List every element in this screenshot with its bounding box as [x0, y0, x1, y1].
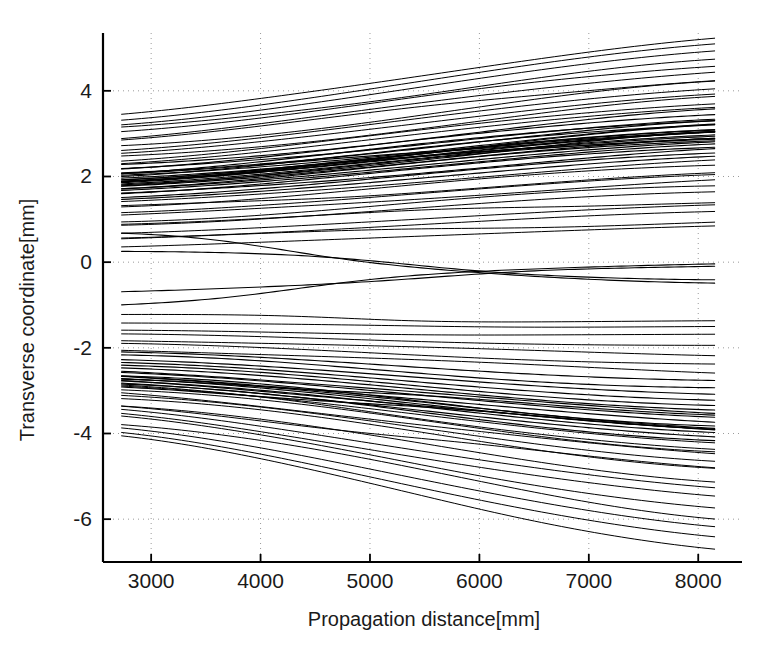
trajectory-line	[122, 211, 715, 238]
x-axis-title: Propagation distance[mm]	[308, 608, 540, 630]
y-tick-label-1: 2	[80, 164, 92, 187]
trajectory-line	[122, 432, 715, 536]
trajectory-line	[122, 330, 715, 335]
trajectory-line	[122, 203, 715, 225]
y-tick-label-2: 0	[80, 250, 92, 273]
y-tick-label-5: -6	[73, 507, 92, 530]
trajectory-curves	[122, 38, 715, 549]
x-tick-label-0: 3000	[128, 569, 175, 592]
trajectory-line	[122, 314, 715, 321]
x-tick-label-1: 4000	[237, 569, 284, 592]
trajectory-line	[122, 186, 715, 222]
trajectory-line	[122, 323, 715, 327]
trajectory-line	[122, 436, 715, 549]
trajectory-line	[122, 165, 715, 207]
figure-panel: 300040005000600070008000420-2-4-6 Propag…	[0, 0, 768, 654]
x-tick-label-2: 5000	[347, 569, 394, 592]
trajectory-line	[122, 264, 715, 305]
trajectory-line	[122, 425, 715, 519]
trajectory-line	[122, 59, 715, 127]
trajectory-line	[122, 406, 715, 482]
x-tick-label-3: 6000	[456, 569, 503, 592]
y-axis-title: Transverse coordinate[mm]	[16, 199, 38, 442]
trajectory-line	[122, 44, 715, 120]
trajectory-line	[122, 266, 715, 291]
y-tick-label-0: 4	[80, 79, 92, 102]
y-tick-label-3: -2	[73, 336, 92, 359]
x-tick-label-5: 8000	[675, 569, 722, 592]
x-tick-label-4: 7000	[565, 569, 612, 592]
trajectory-line	[122, 416, 715, 508]
y-tick-label-4: -4	[73, 421, 92, 444]
trajectory-line	[122, 334, 715, 345]
beam-propagation-plot: 300040005000600070008000420-2-4-6 Propag…	[0, 0, 768, 654]
